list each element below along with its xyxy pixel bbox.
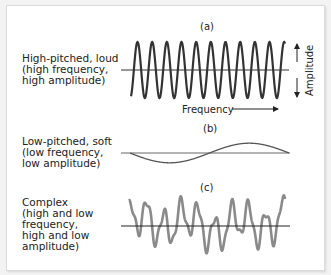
sound-wave-diagram: (a) Amplitude Frequency (b) (c) xyxy=(0,0,331,275)
label-c: (c) xyxy=(200,182,213,193)
label-b: (b) xyxy=(203,123,217,134)
wave-c xyxy=(129,195,285,253)
frequency-label: Frequency xyxy=(182,104,234,115)
label-a: (a) xyxy=(200,21,214,32)
amplitude-label: Amplitude xyxy=(304,45,315,96)
